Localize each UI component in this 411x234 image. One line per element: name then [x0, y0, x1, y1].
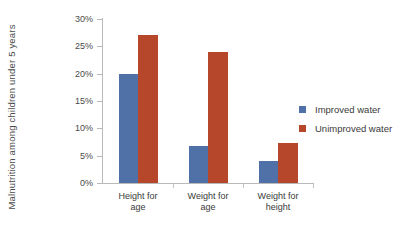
- y-axis-tick-label: 30%: [61, 14, 93, 24]
- bar: [208, 52, 228, 183]
- y-axis-tick-label: 20%: [61, 69, 93, 79]
- legend-swatch-icon: [299, 106, 306, 113]
- bar: [259, 161, 279, 183]
- x-axis-category-label: Height forage: [101, 191, 175, 213]
- x-axis-category-label-line: Weight for: [241, 191, 315, 202]
- y-axis-tick: [97, 19, 102, 20]
- y-axis-tick: [97, 74, 102, 75]
- y-axis-tick: [97, 183, 102, 184]
- y-axis-title: Malnutrition among children under 5 year…: [0, 0, 22, 234]
- y-axis-tick-label: 15%: [61, 96, 93, 106]
- y-axis-tick: [97, 101, 102, 102]
- plot-area: [103, 19, 313, 183]
- y-axis-tick-label: 10%: [61, 123, 93, 133]
- y-axis-tick-label: 25%: [61, 41, 93, 51]
- x-axis-tick: [243, 184, 244, 188]
- x-axis-category-label-line: Height for: [101, 191, 175, 202]
- bar: [138, 35, 158, 183]
- x-axis-category-label-line: age: [171, 202, 245, 213]
- x-axis-category-label: Weight forage: [171, 191, 245, 213]
- bar: [119, 74, 139, 183]
- legend-label: Improved water: [315, 104, 380, 115]
- legend-item[interactable]: Unimproved water: [299, 119, 392, 138]
- x-axis-tick: [173, 184, 174, 188]
- x-axis-category-label-line: age: [101, 202, 175, 213]
- bar: [189, 146, 209, 183]
- x-axis-category-label-line: Weight for: [171, 191, 245, 202]
- legend-swatch-icon: [299, 125, 306, 132]
- y-axis-tick: [97, 156, 102, 157]
- y-axis-tick-label: 0%: [61, 178, 93, 188]
- x-axis-category-label-line: height: [241, 202, 315, 213]
- legend-label: Unimproved water: [315, 123, 392, 134]
- y-axis-tick: [97, 128, 102, 129]
- y-axis-tick-label: 5%: [61, 151, 93, 161]
- x-axis-category-label: Weight forheight: [241, 191, 315, 213]
- bar-chart: Malnutrition among children under 5 year…: [0, 0, 411, 234]
- y-axis-tick: [97, 46, 102, 47]
- x-axis-tick: [313, 184, 314, 188]
- x-axis-line: [102, 183, 314, 184]
- legend-item[interactable]: Improved water: [299, 100, 392, 119]
- chart-legend: Improved waterUnimproved water: [299, 100, 392, 138]
- bar: [278, 143, 298, 183]
